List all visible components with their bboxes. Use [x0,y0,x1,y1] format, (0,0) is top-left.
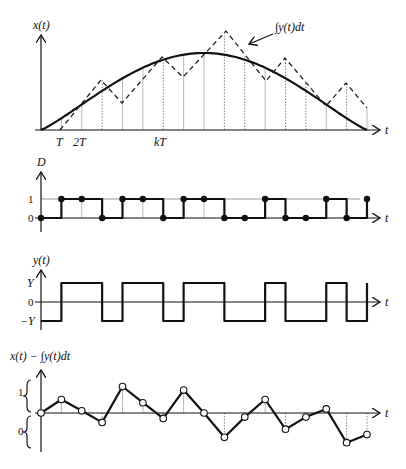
panel-error: x(t) − ∫y(t)dt t 1 0 [9,349,389,452]
x-axis-label: t [385,123,389,137]
d-y-label: D [36,155,46,169]
d-sample-dot [201,196,207,202]
d-sample-dot [99,215,105,221]
err-x-label: t [385,406,389,420]
error-sample-circle [221,434,228,441]
d-sample-dot [282,215,288,221]
y-level-0: 0 [28,296,34,308]
d-sample-dot [221,215,227,221]
integral-annotation: ∫y(t)dt [274,20,305,34]
d-level-1: 1 [28,193,34,205]
error-sample-circle [201,410,208,417]
error-sample-circle [38,410,45,417]
d-sample-dot [303,215,309,221]
error-sample-circle [58,396,65,403]
y-x-label: t [385,295,389,309]
d-sample-dot [119,196,125,202]
d-sample-dot [38,215,44,221]
d-x-label: t [385,211,389,225]
d-sample-dot [180,196,186,202]
d-level-0: 0 [28,212,34,224]
error-sample-circle [180,387,187,394]
y-y-label: y(t) [32,253,50,267]
d-sample-lines [61,199,367,218]
y-level-negY: −Y [20,314,36,328]
sample-lines [61,31,367,130]
d-sample-dot [364,196,370,202]
d-sample-dot [79,196,85,202]
err-region-1: 1 [18,386,24,398]
y-axis-label: x(t) [32,18,50,32]
err-y-label: x(t) − ∫y(t)dt [9,349,71,363]
tick-label-kT: kT [154,135,167,149]
panel-y-output: y(t) t Y 0 −Y [20,253,389,330]
error-sample-circle [119,383,126,390]
error-sample-circle [160,415,167,422]
error-sample-circle [140,399,147,406]
sigma-delta-figure: x(t) t T 2T kT ∫y(t)dt D t 1 0 y(t) t Y … [0,0,406,469]
error-sample-circle [303,414,310,421]
d-sample-dot [160,215,166,221]
d-sample-dot [262,196,268,202]
diagram: x(t) t T 2T kT ∫y(t)dt D t 1 0 y(t) t Y … [0,0,406,469]
integral-dashed-curve [60,31,367,130]
error-sample-circle [78,408,85,415]
panel-d-samples: D t 1 0 [28,155,389,232]
error-sample-circle [282,426,289,433]
error-sample-circle [99,419,106,426]
brace-region-1 [23,380,31,412]
d-sample-dot [343,215,349,221]
error-sample-circle [241,414,248,421]
tick-label-T: T [56,135,64,149]
brace-region-0 [23,416,31,448]
d-sample-dot [242,215,248,221]
y-level-Y: Y [27,276,35,290]
error-sample-circle [262,396,269,403]
d-sample-dot [323,196,329,202]
d-sample-dot [140,196,146,202]
error-sample-circle [343,439,350,446]
err-region-0: 0 [18,425,24,437]
annotation-arrow [249,34,273,44]
d-sample-dot [58,196,64,202]
error-sample-circle [364,431,371,438]
tick-label-2T: 2T [73,135,87,149]
error-sample-circle [323,406,330,413]
panel-signal-and-integral: x(t) t T 2T kT ∫y(t)dt [32,18,389,149]
